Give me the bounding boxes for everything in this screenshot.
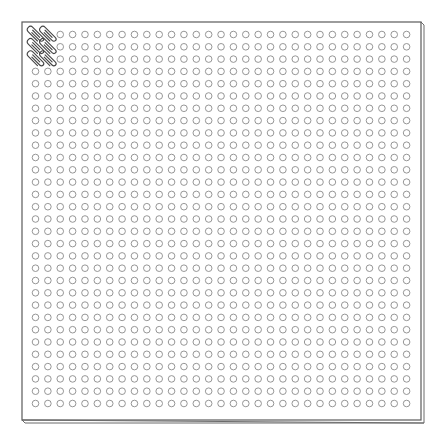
grid-board-diagram [0,0,445,443]
